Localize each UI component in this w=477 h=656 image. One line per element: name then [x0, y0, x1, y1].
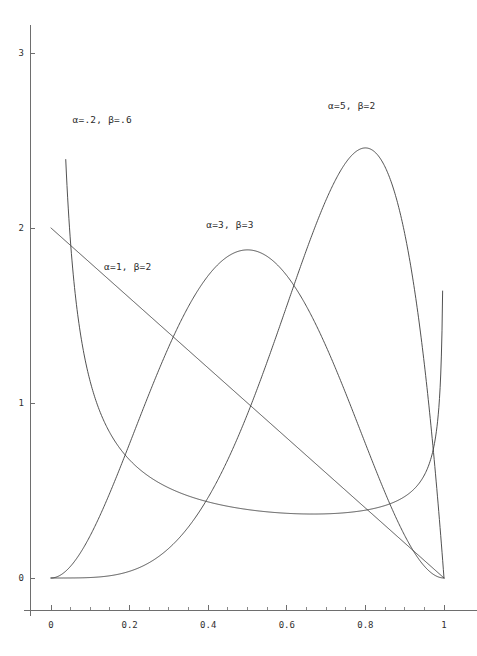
- x-axis-tick-label: 0.2: [121, 620, 137, 630]
- curves-group: [51, 148, 444, 578]
- x-axis-tick-label: 0.4: [200, 620, 216, 630]
- density-curve-4: [51, 148, 444, 578]
- y-axis-tick-label: 3: [8, 48, 24, 58]
- x-axis-tick-label: 0.8: [357, 620, 373, 630]
- x-axis-tick-label: 0.6: [279, 620, 295, 630]
- x-axis-tick-label: 0: [48, 620, 53, 630]
- y-axis-tick-label: 2: [8, 223, 24, 233]
- curve-label-4: α=5, β=2: [328, 100, 375, 111]
- density-curve-2: [51, 228, 444, 578]
- plot-canvas: [0, 0, 477, 656]
- curve-label-2: α=1, β=2: [104, 261, 151, 272]
- curve-label-3: α=3, β=3: [206, 219, 253, 230]
- beta-density-plot: 00.20.40.60.810123 α=.2, β=.6α=1, β=2α=3…: [0, 0, 477, 656]
- curve-label-1: α=.2, β=.6: [73, 114, 132, 125]
- y-axis-tick-label: 0: [8, 573, 24, 583]
- y-axis-tick-label: 1: [8, 398, 24, 408]
- density-curve-1: [66, 160, 443, 514]
- x-axis-tick-label: 1: [441, 620, 446, 630]
